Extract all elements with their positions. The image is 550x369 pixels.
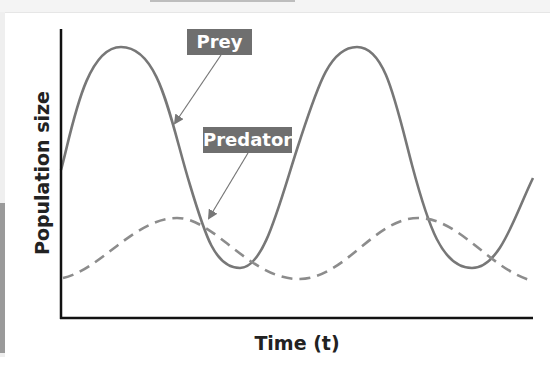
x-axis-label: Time (t)	[254, 332, 339, 354]
predator-label: Predator	[203, 127, 292, 153]
predator-line	[63, 218, 533, 281]
y-axis-label: Population size	[31, 91, 53, 255]
prey-arrow	[175, 55, 221, 123]
predator-prey-chart	[0, 0, 550, 369]
predator-arrow	[209, 153, 248, 218]
prey-label: Prey	[187, 29, 252, 55]
